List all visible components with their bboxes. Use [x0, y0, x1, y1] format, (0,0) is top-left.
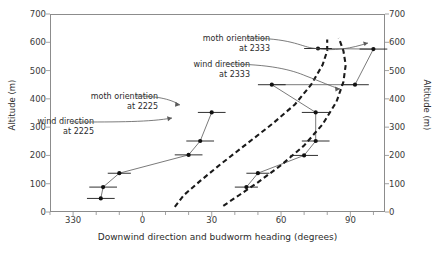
y-right-tick-200: 200 — [389, 150, 415, 160]
annotation-line-2: at 2333 — [180, 44, 270, 54]
annotation-moth-orientation-2333: moth orientation at 2333 — [180, 34, 270, 54]
annotation-wind-direction-2333: wind direction at 2333 — [160, 60, 250, 80]
annotation-line-2: at 2225 — [4, 127, 94, 137]
y-right-tick-300: 300 — [389, 122, 415, 132]
y-left-tick-600: 600 — [22, 37, 46, 47]
x-tick-60: 60 — [261, 215, 301, 225]
x-tick-30: 30 — [192, 215, 232, 225]
y-left-tick-200: 200 — [22, 150, 46, 160]
y-axis-right-ticks: 700 600 500 400 300 200 100 0 — [389, 14, 419, 212]
annotation-line-1: wind direction — [160, 60, 250, 70]
y-left-tick-0: 0 — [22, 207, 46, 217]
y-right-tick-100: 100 — [389, 179, 415, 189]
x-axis-ticks: 330 0 30 60 90 — [50, 215, 385, 229]
annotation-line-1: moth orientation — [180, 34, 270, 44]
y-left-tick-100: 100 — [22, 179, 46, 189]
annotation-moth-orientation-2225: moth orientation at 2225 — [68, 92, 158, 112]
y-left-tick-400: 400 — [22, 94, 46, 104]
x-tick-90: 90 — [330, 215, 370, 225]
annotation-line-2: at 2225 — [68, 102, 158, 112]
chart-figure: 700 600 500 400 300 200 100 0 700 600 50… — [0, 0, 435, 253]
x-tick-330: 330 — [53, 215, 93, 225]
y-left-tick-500: 500 — [22, 66, 46, 76]
y-left-tick-700: 700 — [22, 9, 46, 19]
annotation-line-1: wind direction — [4, 117, 94, 127]
annotation-line-1: moth orientation — [68, 92, 158, 102]
y-right-tick-500: 500 — [389, 66, 415, 76]
annotation-wind-direction-2225: wind direction at 2225 — [4, 117, 94, 137]
y-right-tick-400: 400 — [389, 94, 415, 104]
y-axis-right-title: Altitude (m) — [422, 75, 432, 135]
x-axis-title: Downwind direction and budworm heading (… — [50, 232, 385, 242]
y-right-tick-700: 700 — [389, 9, 415, 19]
y-right-tick-0: 0 — [389, 207, 415, 217]
x-tick-0: 0 — [122, 215, 162, 225]
y-right-tick-600: 600 — [389, 37, 415, 47]
y-axis-left-ticks: 700 600 500 400 300 200 100 0 — [18, 14, 46, 212]
clipped-header-text — [0, 0, 260, 5]
annotation-line-2: at 2333 — [160, 70, 250, 80]
